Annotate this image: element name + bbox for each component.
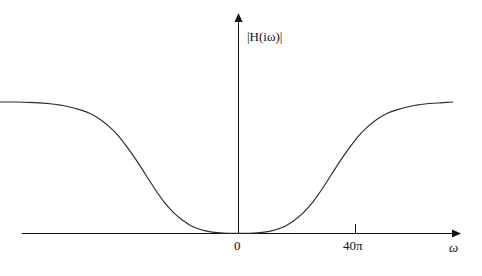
x-tick-label-40pi: 40π	[343, 239, 363, 252]
y-axis-arrowhead	[235, 13, 243, 22]
x-tick-label-zero: 0	[234, 239, 241, 252]
y-axis-label-text: |H(iω)|	[247, 29, 282, 44]
x-axis-arrowhead	[452, 230, 461, 238]
magnitude-response-curve	[0, 102, 453, 233]
plot-canvas	[0, 0, 482, 276]
figure-container: |H(iω)| 0 40π ω	[0, 0, 482, 276]
y-axis-label: |H(iω)|	[247, 30, 282, 43]
x-axis-label: ω	[449, 241, 458, 254]
